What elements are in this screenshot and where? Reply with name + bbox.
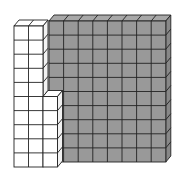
shaded-block bbox=[49, 15, 171, 162]
base-ten-blocks-diagram bbox=[0, 0, 182, 183]
side-face bbox=[58, 91, 63, 168]
front-face bbox=[43, 97, 58, 168]
white-short-block bbox=[43, 91, 63, 168]
